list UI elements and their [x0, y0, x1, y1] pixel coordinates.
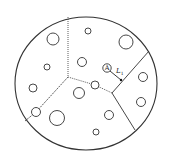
particle-a-label: A [104, 64, 110, 72]
outer-boundary-circle [15, 17, 157, 150]
particle-circle [91, 81, 99, 89]
particle-circle [85, 28, 91, 34]
particle-circle [93, 129, 99, 135]
distance-l1-group: L1 [110, 67, 124, 81]
particle-circle [139, 73, 148, 82]
particle-circle [47, 33, 59, 45]
distance-endpoint-dot [120, 79, 122, 81]
divider-right-lower [112, 93, 135, 130]
particle-circle [137, 98, 146, 107]
particle-circle [78, 58, 87, 67]
particles [29, 28, 148, 135]
particle-circle [50, 111, 65, 126]
particle-circle [105, 111, 114, 120]
particle-circle [119, 35, 133, 49]
particle-circle [32, 108, 41, 117]
particle-circle [74, 88, 85, 99]
marked-particle-group: A [103, 64, 111, 73]
particle-circle [44, 64, 50, 70]
distance-label-subscript: 1 [121, 71, 124, 76]
particle-circle [29, 84, 37, 92]
distance-l1-label: L1 [115, 67, 124, 76]
voronoi-diagram: A L1 [0, 0, 173, 159]
